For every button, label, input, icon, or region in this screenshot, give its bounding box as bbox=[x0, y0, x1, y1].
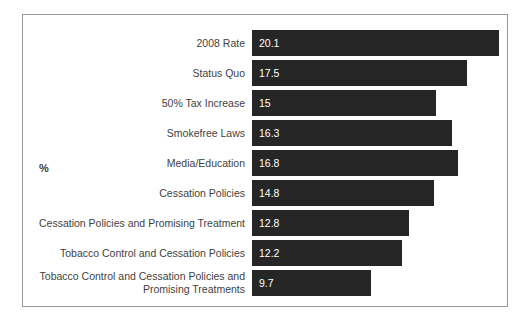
bar-rect bbox=[252, 240, 402, 266]
bar-row: Tobacco Control and Cessation Policies12… bbox=[23, 238, 509, 268]
bar-row: Tobacco Control and Cessation Policies a… bbox=[23, 268, 509, 298]
bar-track: 16.3 bbox=[252, 120, 507, 146]
bar-track: 12.8 bbox=[252, 210, 507, 236]
bar-row: Cessation Policies and Promising Treatme… bbox=[23, 208, 509, 238]
bar-rect bbox=[252, 270, 371, 296]
bar-row: Status Quo17.5 bbox=[23, 58, 509, 88]
bar-track: 16.8 bbox=[252, 150, 507, 176]
bar-row: Cessation Policies14.8 bbox=[23, 178, 509, 208]
bar-category-label: Media/Education bbox=[15, 148, 245, 178]
bar-category-label: Cessation Policies bbox=[15, 178, 245, 208]
bar-track: 17.5 bbox=[252, 60, 507, 86]
bar-track: 9.7 bbox=[252, 270, 507, 296]
bar-rect bbox=[252, 120, 452, 146]
bars-area: 2008 Rate20.1Status Quo17.550% Tax Incre… bbox=[23, 15, 509, 306]
bar-rect bbox=[252, 90, 436, 116]
bar-rect bbox=[252, 150, 458, 176]
bar-chart-figure: % 2008 Rate20.1Status Quo17.550% Tax Inc… bbox=[0, 0, 524, 321]
bar-category-label: Tobacco Control and Cessation Policies a… bbox=[15, 268, 245, 298]
bar-row: Media/Education16.8 bbox=[23, 148, 509, 178]
bar-track: 15 bbox=[252, 90, 507, 116]
bar-category-label: 50% Tax Increase bbox=[15, 88, 245, 118]
bar-row: Smokefree Laws16.3 bbox=[23, 118, 509, 148]
bar-row: 2008 Rate20.1 bbox=[23, 28, 509, 58]
bar-category-label: 2008 Rate bbox=[15, 28, 245, 58]
bar-row: 50% Tax Increase15 bbox=[23, 88, 509, 118]
bar-category-label: Tobacco Control and Cessation Policies bbox=[15, 238, 245, 268]
bar-rect bbox=[252, 210, 409, 236]
bar-rect bbox=[252, 180, 434, 206]
bar-category-label: Smokefree Laws bbox=[15, 118, 245, 148]
bar-category-label: Cessation Policies and Promising Treatme… bbox=[15, 208, 245, 238]
bar-rect bbox=[252, 30, 499, 56]
bar-track: 12.2 bbox=[252, 240, 507, 266]
bar-track: 14.8 bbox=[252, 180, 507, 206]
bar-rect bbox=[252, 60, 467, 86]
bar-category-label: Status Quo bbox=[15, 58, 245, 88]
bar-track: 20.1 bbox=[252, 30, 507, 56]
chart-plot-frame: % 2008 Rate20.1Status Quo17.550% Tax Inc… bbox=[22, 14, 508, 307]
